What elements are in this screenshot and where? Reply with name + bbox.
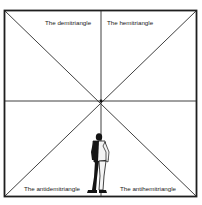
- square-diagram: The demitriangle The hemitriangle The an…: [0, 0, 202, 205]
- label-demitriangle: The demitriangle: [45, 20, 91, 26]
- label-antihemitriangle: The antihemitriangle: [120, 186, 176, 192]
- label-hemitriangle: The hemitriangle: [107, 20, 153, 26]
- label-antidemitriangle: The antidemitriangle: [24, 186, 80, 192]
- standing-man-figure: [87, 133, 109, 193]
- diagram-canvas: [0, 0, 202, 205]
- center-point: [100, 100, 103, 103]
